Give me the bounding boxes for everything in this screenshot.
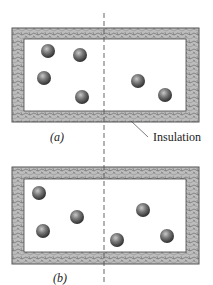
panel-label: (a) [50,130,64,144]
panel-b: (b) [12,167,199,285]
gas-molecule [75,90,89,104]
panel-label: (b) [53,271,67,285]
gas-molecule [32,186,46,200]
panel-a: (a) [12,28,199,144]
thermal-diagram: (a)(b) Insulation [0,0,213,285]
insulation-label: Insulation [153,130,201,144]
gas-molecule [160,229,174,243]
insulation-leader-line [131,121,148,137]
gas-molecule [36,224,50,238]
gas-molecule [73,48,87,62]
gas-molecule [37,71,51,85]
gas-molecule [158,88,172,102]
gas-molecule [41,44,55,58]
gas-molecule [136,203,150,217]
container-interior [24,179,186,252]
gas-molecule [131,74,145,88]
gas-molecule [70,210,84,224]
gas-molecule [110,233,124,247]
